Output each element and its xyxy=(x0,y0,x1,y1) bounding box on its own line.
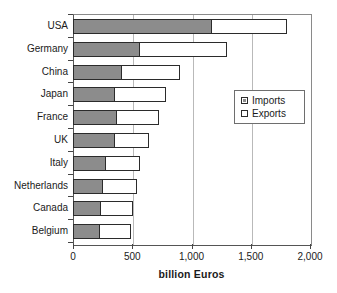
legend-label-exports: Exports xyxy=(252,107,286,120)
y-axis-tick xyxy=(68,105,73,106)
legend-item-exports[interactable]: Exports xyxy=(241,107,304,120)
y-axis-label-canada: Canada xyxy=(0,202,68,213)
x-axis-tick xyxy=(192,244,193,249)
bar-segment-exports[interactable] xyxy=(212,19,287,34)
y-axis-tick xyxy=(68,151,73,152)
x-axis-tick xyxy=(310,244,311,249)
bar-segment-exports[interactable] xyxy=(140,42,227,57)
legend-label-imports: Imports xyxy=(252,94,285,107)
bar-row[interactable] xyxy=(73,179,137,194)
y-axis-tick xyxy=(68,14,73,15)
x-axis-tick xyxy=(132,244,133,249)
y-axis-label-china: China xyxy=(0,66,68,77)
empty-square-icon xyxy=(241,110,248,117)
y-axis-label-japan: Japan xyxy=(0,88,68,99)
filled-square-icon xyxy=(241,97,248,104)
y-axis-tick xyxy=(68,174,73,175)
y-axis-label-belgium: Belgium xyxy=(0,225,68,236)
bar-row[interactable] xyxy=(73,65,180,80)
bar-segment-imports[interactable] xyxy=(73,201,101,216)
bar-row[interactable] xyxy=(73,133,149,148)
bar-segment-imports[interactable] xyxy=(73,19,212,34)
y-axis-tick xyxy=(68,219,73,220)
x-axis-tick-label-2000: 2,000 xyxy=(290,251,330,263)
bar-segment-exports[interactable] xyxy=(103,179,137,194)
bar-row[interactable] xyxy=(73,156,140,171)
x-axis-tick xyxy=(251,244,252,249)
bar-row[interactable] xyxy=(73,201,133,216)
bar-segment-imports[interactable] xyxy=(73,224,100,239)
legend: Imports Exports xyxy=(234,90,305,124)
bar-segment-imports[interactable] xyxy=(73,156,106,171)
x-axis-tick-label-1000: 1,000 xyxy=(172,251,212,263)
bar-segment-exports[interactable] xyxy=(101,201,133,216)
x-axis-tick xyxy=(73,244,74,249)
bar-row[interactable] xyxy=(73,42,227,57)
bar-segment-imports[interactable] xyxy=(73,133,115,148)
y-axis-tick xyxy=(68,82,73,83)
y-axis-tick xyxy=(68,37,73,38)
x-axis-title: billion Euros xyxy=(73,268,310,280)
y-axis-label-italy: Italy xyxy=(0,157,68,168)
y-axis-tick xyxy=(68,196,73,197)
y-axis-labels: USA Germany China Japan France UK Italy … xyxy=(0,14,68,244)
bar-chart: USA Germany China Japan France UK Italy … xyxy=(0,0,337,293)
bar-segment-exports[interactable] xyxy=(122,65,180,80)
y-axis-label-germany: Germany xyxy=(0,43,68,54)
bar-segment-imports[interactable] xyxy=(73,65,122,80)
bar-segment-imports[interactable] xyxy=(73,179,103,194)
bar-segment-imports[interactable] xyxy=(73,87,115,102)
bar-segment-exports[interactable] xyxy=(100,224,131,239)
bars-layer xyxy=(73,14,310,244)
bar-segment-imports[interactable] xyxy=(73,110,117,125)
x-axis-tick-label-500: 500 xyxy=(112,251,152,263)
bar-segment-imports[interactable] xyxy=(73,42,140,57)
bar-row[interactable] xyxy=(73,19,287,34)
x-axis-tick-label-0: 0 xyxy=(53,251,93,263)
bar-row[interactable] xyxy=(73,110,159,125)
legend-item-imports[interactable]: Imports xyxy=(241,94,304,107)
y-axis-tick xyxy=(68,128,73,129)
bar-row[interactable] xyxy=(73,224,131,239)
x-axis-tick-label-1500: 1,500 xyxy=(231,251,271,263)
y-axis-label-france: France xyxy=(0,111,68,122)
bar-segment-exports[interactable] xyxy=(117,110,159,125)
bar-segment-exports[interactable] xyxy=(106,156,140,171)
y-axis-tick xyxy=(68,60,73,61)
bar-segment-exports[interactable] xyxy=(115,87,166,102)
bar-row[interactable] xyxy=(73,87,166,102)
y-axis-label-uk: UK xyxy=(0,134,68,145)
y-axis-label-usa: USA xyxy=(0,20,68,31)
y-axis-tick xyxy=(68,242,73,243)
bar-segment-exports[interactable] xyxy=(115,133,149,148)
y-axis-label-netherlands: Netherlands xyxy=(0,180,68,191)
